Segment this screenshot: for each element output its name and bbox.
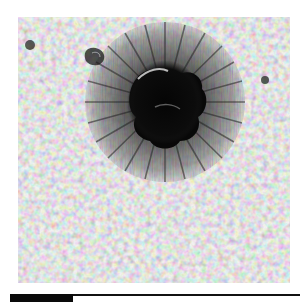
- sunspot-graphic: [18, 17, 290, 283]
- scale-bar: [10, 294, 73, 302]
- sunspot-image: [18, 17, 290, 283]
